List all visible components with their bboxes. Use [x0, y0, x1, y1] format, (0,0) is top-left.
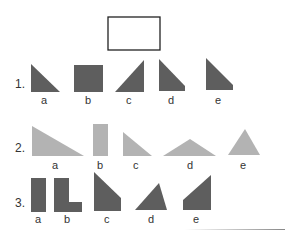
shape-2e [228, 129, 260, 155]
shape-label: e [215, 94, 221, 106]
figure-canvas [0, 0, 285, 235]
shape-label: b [64, 213, 70, 225]
shape-1e [206, 58, 233, 90]
shape-label: a [52, 159, 58, 171]
shape-label: b [97, 159, 103, 171]
shape-label: e [240, 159, 246, 171]
target-rectangle [108, 17, 160, 50]
divider-line [185, 229, 285, 230]
shape-2d [163, 139, 216, 156]
shape-1c [115, 60, 144, 92]
shape-1d [159, 59, 185, 91]
shape-3e [183, 175, 211, 210]
shape-2b [93, 124, 108, 156]
shape-label: b [85, 94, 91, 106]
row-number: 1. [15, 77, 25, 91]
shape-3b [54, 178, 82, 212]
shape-label: d [187, 159, 193, 171]
shape-label: c [126, 94, 132, 106]
shape-3c [94, 172, 121, 211]
shape-2c [123, 132, 152, 156]
shape-label: c [133, 159, 139, 171]
row-number: 2. [15, 141, 25, 155]
shape-label: d [168, 94, 174, 106]
shape-label: e [193, 213, 199, 225]
shape-label: a [41, 94, 47, 106]
shape-label: d [148, 213, 154, 225]
shape-label: c [104, 213, 110, 225]
shape-3a [31, 178, 46, 212]
shape-label: a [35, 213, 41, 225]
row-number: 3. [15, 196, 25, 210]
shape-3d [135, 183, 167, 210]
shape-1a [31, 64, 60, 92]
shape-1b [74, 65, 103, 92]
shape-2a [32, 126, 84, 156]
